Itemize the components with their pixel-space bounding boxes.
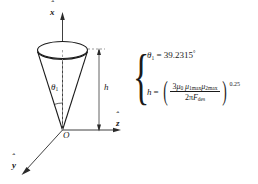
theta-angle-arc <box>54 103 63 105</box>
open-paren: ( <box>163 79 168 105</box>
mu0-subscript: 0 <box>181 85 184 91</box>
equation-block: { θ1 = 39.2315° h = ( 3μ0 μ1maxμ2max 2πF… <box>133 45 255 117</box>
theta-equation: θ1 = 39.2315° <box>147 50 195 61</box>
x-axis-label: x ˆ <box>50 8 55 17</box>
height-equation: h = ( 3μ0 μ1maxμ2max 2πFdes ) 0.25 <box>147 79 240 105</box>
height-label: h <box>104 83 109 92</box>
figure-canvas: x ˆ z ˆ y ˆ O θ1 h { θ1 = 39.2315° h <box>0 0 258 184</box>
y-axis-label: y ˆ <box>12 161 16 170</box>
z-axis-label: z ˆ <box>116 119 120 128</box>
y-axis-hat: ˆ <box>12 154 15 162</box>
mu1max-subscript: 1max <box>189 85 201 91</box>
fraction-numerator: 3μ0 μ1maxμ2max <box>170 82 221 92</box>
h-fraction: 3μ0 μ1maxμ2max 2πFdes <box>170 82 221 102</box>
force-subscript: des <box>198 96 205 102</box>
mu2max-subscript: 2max <box>205 85 217 91</box>
z-axis-hat: ˆ <box>116 112 119 120</box>
x-axis-arrowhead <box>60 12 65 20</box>
fraction-denominator: 2πFdes <box>170 92 221 102</box>
degree-symbol: ° <box>193 50 195 56</box>
theta-subscript: 1 <box>55 86 58 92</box>
origin-label: O <box>63 131 70 140</box>
close-paren: ) <box>223 79 228 105</box>
h-eq-relation: = <box>152 87 161 97</box>
z-axis-arrowhead <box>113 128 121 132</box>
theta-eq-relation: = <box>156 50 161 60</box>
cone-side-right <box>63 52 88 130</box>
theta-angle-label: θ1 <box>51 83 58 93</box>
y-axis-line <box>26 130 63 170</box>
x-axis-hat: ˆ <box>51 1 54 9</box>
y-axis-arrowhead <box>22 167 31 175</box>
theta-eq-value: 39.2315 <box>164 50 193 60</box>
theta-eq-subscript: 1 <box>151 55 154 61</box>
exponent: 0.25 <box>229 81 240 87</box>
denominator-coefficient: 2π <box>185 93 193 102</box>
